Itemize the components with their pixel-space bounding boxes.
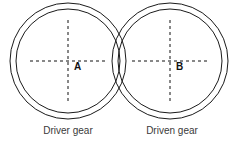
driven-gear-center-label: B <box>176 62 183 72</box>
gear-pair-diagram: A B Driver gear Driven gear <box>0 0 240 149</box>
driven-gear-caption: Driven gear <box>104 126 240 136</box>
driver-gear-center-label: A <box>74 62 81 72</box>
